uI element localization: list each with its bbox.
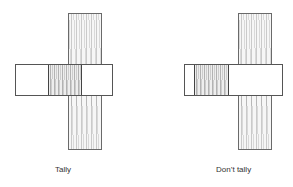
dont-tally-panel: Don’t tally xyxy=(0,0,293,187)
dont-tally-label: Don’t tally xyxy=(216,165,251,174)
shaded-section xyxy=(194,65,229,95)
